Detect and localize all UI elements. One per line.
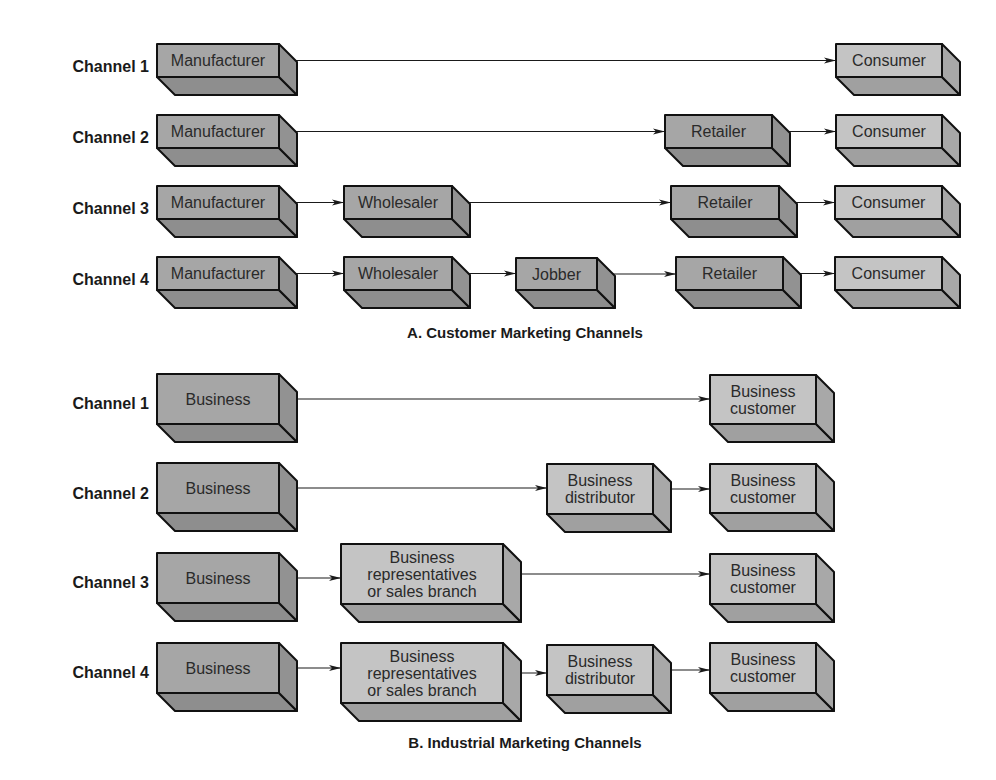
node-label: Business	[731, 651, 796, 668]
node-label: Business	[186, 480, 251, 497]
node-label: Business	[731, 383, 796, 400]
node-label: distributor	[565, 489, 636, 506]
channel-node-c4-consumer: Consumer	[835, 257, 960, 308]
box-bottom-face	[710, 513, 834, 531]
channel-node-c3-consumer: Consumer	[835, 186, 960, 237]
node-label: Manufacturer	[171, 123, 266, 140]
node-label: Consumer	[852, 123, 926, 140]
channel-node-i2-distributor: Businessdistributor	[547, 464, 671, 532]
channel-node-i3-customer: Businesscustomer	[710, 554, 834, 622]
channel-node-i4-business: Business	[157, 643, 297, 711]
channel-node-c3-manufacturer: Manufacturer	[157, 186, 297, 237]
marketing-channels-diagram: ManufacturerConsumerManufacturerRetailer…	[0, 0, 996, 780]
channel-label: Channel 3	[73, 200, 150, 217]
channel-node-i4-distributor: Businessdistributor	[547, 645, 671, 713]
channel-node-i2-customer: Businesscustomer	[710, 464, 834, 531]
box-bottom-face	[836, 148, 960, 166]
node-label: Business	[186, 391, 251, 408]
node-label: representatives	[367, 566, 476, 583]
node-label: customer	[730, 489, 796, 506]
node-label: Business	[186, 660, 251, 677]
channel-node-i3-business: Business	[157, 553, 297, 621]
node-label: distributor	[565, 670, 636, 687]
channel-row: BusinessBusinesscustomer	[157, 374, 834, 442]
channel-label: Channel 2	[73, 485, 150, 502]
channel-row: ManufacturerRetailerConsumer	[157, 115, 960, 166]
box-bottom-face	[710, 424, 834, 442]
box-bottom-face	[665, 148, 790, 166]
node-label: Jobber	[532, 266, 582, 283]
box-bottom-face	[157, 693, 297, 711]
channel-node-i1-customer: Businesscustomer	[710, 375, 834, 442]
channel-label: Channel 4	[73, 664, 150, 681]
section-industrial: BusinessBusinesscustomerBusinessBusiness…	[157, 374, 834, 721]
channel-node-i4-customer: Businesscustomer	[710, 643, 834, 711]
channel-node-c2-manufacturer: Manufacturer	[157, 115, 297, 166]
node-label: Business	[390, 648, 455, 665]
box-bottom-face	[157, 603, 297, 621]
channel-node-c4-jobber: Jobber	[516, 258, 615, 308]
node-label: or sales branch	[367, 583, 476, 600]
node-label: Business	[568, 653, 633, 670]
node-label: Business	[568, 472, 633, 489]
box-bottom-face	[341, 703, 521, 721]
box-bottom-face	[671, 219, 797, 237]
box-bottom-face	[157, 290, 297, 308]
channel-node-c2-consumer: Consumer	[836, 115, 960, 166]
node-label: Business	[731, 472, 796, 489]
box-bottom-face	[835, 219, 960, 237]
box-bottom-face	[344, 290, 470, 308]
node-label: Consumer	[852, 194, 926, 211]
box-bottom-face	[157, 219, 297, 237]
node-label: Retailer	[697, 194, 753, 211]
box-bottom-face	[157, 513, 297, 531]
channel-row: BusinessBusinessrepresentativesor sales …	[157, 643, 834, 721]
channel-node-c1-consumer: Consumer	[836, 44, 960, 95]
node-label: Business	[186, 570, 251, 587]
node-label: Manufacturer	[171, 265, 266, 282]
channel-node-i2-business: Business	[157, 463, 297, 531]
node-label: representatives	[367, 665, 476, 682]
box-bottom-face	[547, 695, 671, 713]
channel-node-c4-manufacturer: Manufacturer	[157, 257, 297, 308]
node-label: Retailer	[691, 123, 747, 140]
node-label: Manufacturer	[171, 194, 266, 211]
box-bottom-face	[676, 290, 801, 308]
channel-row: ManufacturerWholesalerRetailerConsumer	[157, 186, 960, 237]
channel-node-i3-representatives: Businessrepresentativesor sales branch	[341, 544, 521, 622]
node-label: Business	[731, 562, 796, 579]
channel-label: Channel 1	[73, 395, 150, 412]
channel-node-i1-business: Business	[157, 374, 297, 442]
box-bottom-face	[344, 219, 470, 237]
box-bottom-face	[341, 604, 521, 622]
box-bottom-face	[157, 77, 297, 95]
node-label: Retailer	[702, 265, 758, 282]
box-bottom-face	[710, 693, 834, 711]
section-caption-industrial: B. Industrial Marketing Channels	[408, 734, 641, 751]
box-bottom-face	[835, 290, 960, 308]
channel-label: Channel 1	[73, 58, 150, 75]
channel-node-c3-wholesaler: Wholesaler	[344, 186, 470, 237]
channel-node-c4-retailer: Retailer	[676, 257, 801, 308]
channel-row: ManufacturerConsumer	[157, 44, 960, 95]
channel-node-i4-representatives: Businessrepresentativesor sales branch	[341, 643, 521, 721]
channel-label: Channel 2	[73, 129, 150, 146]
channel-row: BusinessBusinessdistributorBusinesscusto…	[157, 463, 834, 532]
node-label: Consumer	[852, 265, 926, 282]
node-layer: ManufacturerConsumerManufacturerRetailer…	[157, 44, 960, 721]
box-bottom-face	[710, 604, 834, 622]
node-label: customer	[730, 668, 796, 685]
node-label: customer	[730, 400, 796, 417]
box-bottom-face	[836, 77, 960, 95]
section-caption-consumer: A. Customer Marketing Channels	[407, 324, 643, 341]
channel-node-c3-retailer: Retailer	[671, 186, 797, 237]
section-consumer: ManufacturerConsumerManufacturerRetailer…	[157, 44, 960, 308]
channel-label: Channel 4	[73, 271, 150, 288]
node-label: Consumer	[852, 52, 926, 69]
channel-label: Channel 3	[73, 574, 150, 591]
channel-row: ManufacturerWholesalerJobberRetailerCons…	[157, 257, 960, 308]
node-label: customer	[730, 579, 796, 596]
node-label: Wholesaler	[358, 194, 439, 211]
box-bottom-face	[157, 148, 297, 166]
channel-row: BusinessBusinessrepresentativesor sales …	[157, 544, 834, 622]
